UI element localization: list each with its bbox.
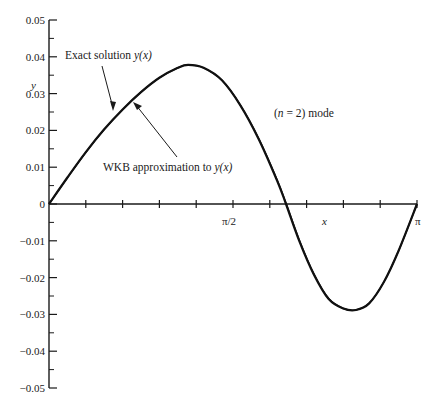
exact-solution-curve xyxy=(49,65,417,310)
y-tick-label: −0.02 xyxy=(20,272,45,284)
y-tick-label: −0.03 xyxy=(20,308,46,320)
chart-canvas: 0.050.040.030.020.010−0.01−0.02−0.03−0.0… xyxy=(0,0,436,407)
x-tick-label-pi-half: π/2 xyxy=(222,215,236,227)
y-tick-label: 0 xyxy=(40,198,46,210)
y-tick-label: 0.05 xyxy=(26,14,46,26)
wkb-label-arrow xyxy=(136,105,177,157)
mode-rest: = 2) mode xyxy=(284,107,334,120)
y-tick-label: −0.05 xyxy=(20,382,46,394)
exact-solution-label: Exact solution y(x) xyxy=(65,49,152,62)
y-axis-label: y xyxy=(30,79,36,91)
y-tick-label: 0.01 xyxy=(26,161,45,173)
x-tick-label-pi: π xyxy=(415,215,421,227)
exact-label-prefix: Exact solution xyxy=(65,49,134,61)
wkb-approximation-curve xyxy=(49,65,417,311)
wkb-approximation-label: WKB approximation to y(x) xyxy=(103,161,233,174)
exact-label-function: y(x) xyxy=(133,49,152,62)
y-tick-label: 0.04 xyxy=(26,51,46,63)
mode-label: (n = 2) mode xyxy=(274,107,334,120)
y-tick-label: −0.04 xyxy=(20,345,46,357)
exact-arrow-head-icon xyxy=(110,101,116,111)
wkb-label-function: y(x) xyxy=(213,161,232,174)
wkb-arrow-head-icon xyxy=(133,102,142,110)
y-tick-label: 0.02 xyxy=(26,124,45,136)
x-axis-label: x xyxy=(321,215,327,227)
wkb-label-prefix: WKB approximation to xyxy=(103,161,214,174)
y-axis-tick-labels: 0.050.040.030.020.010−0.01−0.02−0.03−0.0… xyxy=(20,14,46,394)
y-tick-label: −0.01 xyxy=(20,235,45,247)
